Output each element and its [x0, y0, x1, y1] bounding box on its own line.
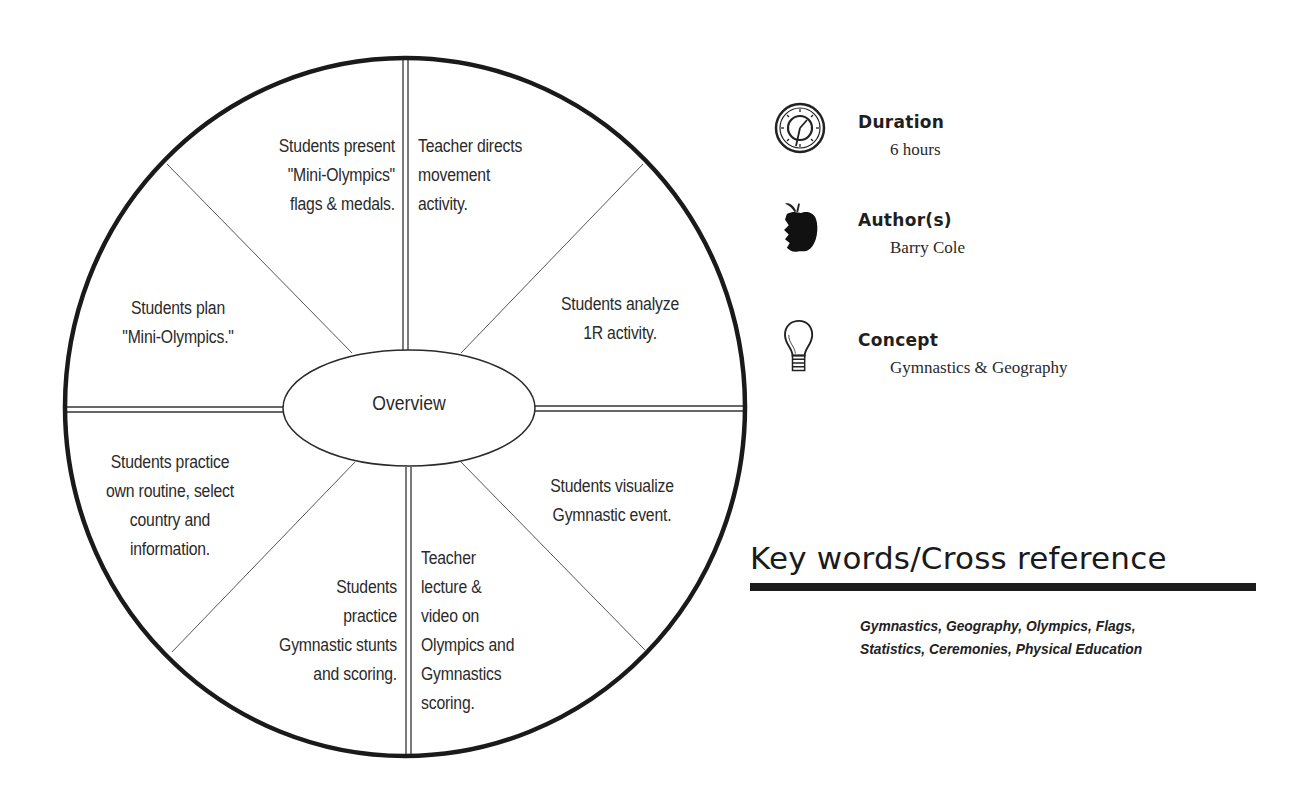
- keywords-list: Gymnastics, Geography, Olympics, Flags, …: [860, 614, 1228, 660]
- info-concept: Concept Gymnastics & Geography: [772, 318, 1172, 388]
- lightbulb-icon: [772, 318, 828, 378]
- info-authors: Author(s) Barry Cole: [772, 198, 1172, 268]
- keywords-line-2: Statistics, Ceremonies, Physical Educati…: [860, 637, 1228, 660]
- concept-value: Gymnastics & Geography: [890, 358, 1068, 378]
- authors-value: Barry Cole: [890, 238, 965, 258]
- segment-right-lower: Students visualize Gymnastic event.: [522, 472, 702, 530]
- duration-label: Duration: [858, 112, 944, 132]
- keywords-heading: Key words/Cross reference: [750, 540, 1256, 576]
- clock-icon: [772, 100, 828, 160]
- segment-right-upper: Students analyze 1R activity.: [530, 290, 710, 348]
- segment-bottom-right: Teacher lecture & video on Olympics and …: [421, 544, 556, 718]
- concept-label: Concept: [858, 330, 938, 350]
- segment-left-lower: Students practice own routine, select co…: [80, 448, 260, 564]
- segment-bottom-left: Students practice Gymnastic stunts and s…: [217, 573, 397, 689]
- authors-label: Author(s): [858, 210, 952, 230]
- keywords-line-1: Gymnastics, Geography, Olympics, Flags,: [860, 614, 1228, 637]
- horizontal-spoke-right: [534, 406, 744, 411]
- keywords-divider: [750, 583, 1256, 591]
- overview-label: Overview: [297, 392, 521, 415]
- apple-icon: [772, 198, 828, 258]
- vertical-spoke-bottom: [406, 467, 411, 756]
- info-duration: Duration 6 hours: [772, 100, 1172, 170]
- duration-value: 6 hours: [890, 140, 941, 160]
- segment-left-upper: Students plan "Mini-Olympics.": [88, 294, 268, 352]
- segment-top-right: Teacher directs movement activity.: [418, 132, 598, 219]
- horizontal-spoke-left: [66, 407, 284, 412]
- segment-top-left: Students present "Mini-Olympics" flags &…: [215, 132, 395, 219]
- vertical-spoke-top: [403, 59, 408, 350]
